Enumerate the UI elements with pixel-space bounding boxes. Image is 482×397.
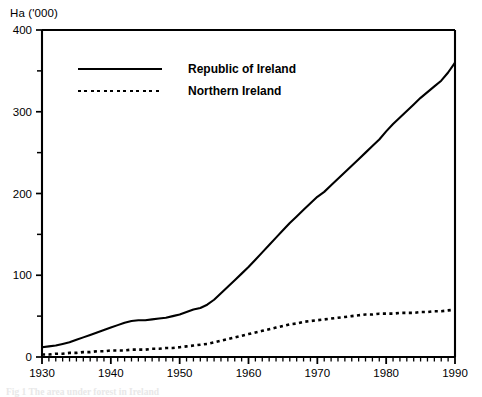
- chart-legend: Republic of Ireland Northern Ireland: [78, 58, 328, 102]
- legend-item-northern-ireland: Northern Ireland: [78, 80, 328, 102]
- figure-caption: Fig 1 The area under forest in Ireland: [6, 386, 476, 397]
- x-tick-label: 1940: [88, 367, 134, 379]
- y-tick-label: 200: [0, 188, 32, 200]
- x-tick-label: 1980: [363, 367, 409, 379]
- series-line-republic-of-ireland: [42, 63, 455, 347]
- legend-item-republic-of-ireland: Republic of Ireland: [78, 58, 328, 80]
- x-tick-label: 1960: [226, 367, 272, 379]
- legend-label-northern-ireland: Northern Ireland: [188, 84, 281, 98]
- figure-chart-forest-area: Ha ('000) 0100200300400 1930194019501960…: [0, 0, 482, 397]
- y-tick-label: 300: [0, 106, 32, 118]
- x-tick-label: 1950: [157, 367, 203, 379]
- y-tick-label: 0: [0, 351, 32, 363]
- legend-label-republic-of-ireland: Republic of Ireland: [188, 62, 296, 76]
- x-tick-label: 1970: [294, 367, 340, 379]
- legend-line-sample-solid-icon: [78, 63, 162, 75]
- series-line-northern-ireland: [42, 310, 455, 355]
- legend-line-sample-dotted-icon: [78, 85, 162, 97]
- y-tick-label: 400: [0, 24, 32, 36]
- x-tick-label: 1990: [432, 367, 478, 379]
- x-tick-label: 1930: [19, 367, 65, 379]
- series-group: [42, 63, 455, 355]
- y-tick-label: 100: [0, 269, 32, 281]
